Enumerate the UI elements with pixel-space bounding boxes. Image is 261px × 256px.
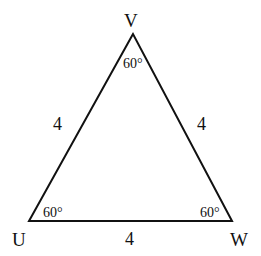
vertex-label-v: V xyxy=(124,10,138,31)
vertex-label-u: U xyxy=(12,229,26,250)
vertex-label-w: W xyxy=(230,229,248,250)
side-label-uv: 4 xyxy=(53,114,62,134)
angle-label-v: 60° xyxy=(123,56,143,71)
angle-label-u: 60° xyxy=(43,205,63,220)
angle-label-w: 60° xyxy=(200,205,220,220)
triangle-diagram: V U W 4 4 4 60° 60° 60° xyxy=(0,0,261,256)
side-label-vw: 4 xyxy=(197,114,206,134)
side-label-uw: 4 xyxy=(125,229,134,249)
